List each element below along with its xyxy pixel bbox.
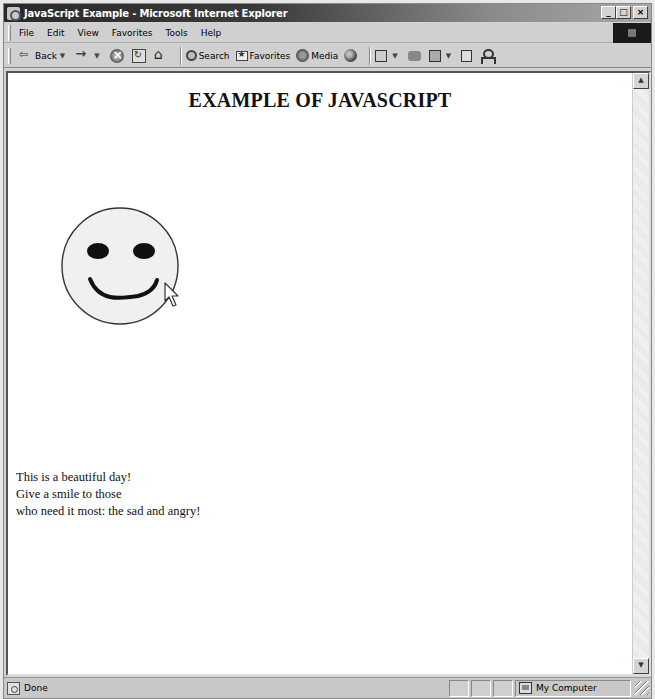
media-label: Media: [311, 51, 338, 61]
stop-icon: [110, 49, 124, 63]
vertical-scrollbar[interactable]: ▲ ▼: [632, 73, 649, 674]
print-icon: [408, 51, 421, 61]
status-pane: [493, 680, 513, 697]
search-icon: [186, 50, 197, 61]
status-pane: [471, 680, 491, 697]
search-button[interactable]: Search: [186, 50, 230, 61]
menu-edit[interactable]: Edit: [47, 28, 64, 38]
scroll-down-button[interactable]: ▼: [633, 658, 649, 674]
page-content: EXAMPLE OF JAVASCRIPT This is a beautifu…: [8, 73, 632, 674]
favorites-icon: [236, 51, 248, 61]
forward-icon: [75, 49, 89, 63]
refresh-button[interactable]: [132, 49, 148, 63]
messenger-button[interactable]: [480, 49, 496, 63]
windows-logo-throbber: [613, 23, 651, 43]
back-label: Back: [35, 51, 57, 61]
back-dropdown-icon[interactable]: ▼: [60, 52, 65, 60]
resize-grip[interactable]: [635, 681, 649, 695]
poem-line: This is a beautiful day!: [16, 469, 200, 486]
history-icon: [344, 49, 357, 62]
edit-icon: [429, 50, 441, 62]
search-label: Search: [199, 51, 230, 61]
close-button[interactable]: ×: [633, 6, 648, 19]
history-button[interactable]: [344, 49, 359, 62]
page-viewport: EXAMPLE OF JAVASCRIPT This is a beautifu…: [6, 71, 651, 676]
ie-logo-icon: [7, 7, 20, 20]
computer-icon: [519, 682, 532, 694]
home-icon: [154, 49, 168, 63]
forward-button[interactable]: ▼: [75, 49, 103, 63]
title-bar[interactable]: JavaScript Example - Microsoft Internet …: [4, 4, 651, 22]
forward-dropdown-icon[interactable]: ▼: [94, 52, 99, 60]
edit-dropdown-icon[interactable]: ▼: [446, 52, 451, 60]
maximize-button[interactable]: □: [616, 6, 631, 19]
mail-dropdown-icon[interactable]: ▼: [392, 52, 397, 60]
menu-favorites[interactable]: Favorites: [112, 28, 153, 38]
edit-button[interactable]: ▼: [429, 50, 455, 62]
back-icon: [19, 49, 33, 63]
favorites-button[interactable]: Favorites: [236, 51, 291, 61]
favorites-label: Favorites: [250, 51, 291, 61]
mail-icon: [375, 50, 387, 62]
minimize-button[interactable]: _: [601, 6, 616, 19]
menu-view[interactable]: View: [78, 28, 99, 38]
messenger-icon: [480, 49, 494, 63]
menu-bar: File Edit View Favorites Tools Help: [4, 23, 651, 43]
status-pane: [449, 680, 469, 697]
page-heading: EXAMPLE OF JAVASCRIPT: [8, 89, 632, 112]
menubar-grip[interactable]: [8, 25, 11, 41]
menu-file[interactable]: File: [19, 28, 34, 38]
security-zone[interactable]: My Computer: [515, 680, 631, 697]
scroll-up-button[interactable]: ▲: [633, 73, 649, 89]
poem-text: This is a beautiful day! Give a smile to…: [16, 469, 200, 520]
toolbar-separator: [369, 47, 371, 65]
poem-line: who need it most: the sad and angry!: [16, 503, 200, 520]
refresh-icon: [132, 49, 146, 63]
discuss-icon: [461, 50, 472, 62]
toolbar-grip[interactable]: [8, 48, 11, 64]
status-bar: Done My Computer: [4, 677, 651, 698]
menu-tools[interactable]: Tools: [166, 28, 188, 38]
stop-button[interactable]: [110, 49, 126, 63]
zone-label: My Computer: [536, 683, 597, 693]
standard-toolbar: Back ▼ ▼ Search Favorites Media: [4, 44, 651, 68]
page-status-icon: [7, 682, 20, 695]
poem-line: Give a smile to those: [16, 486, 200, 503]
toolbar-separator: [180, 47, 182, 65]
status-text: Done: [24, 683, 447, 693]
smiley-face-image[interactable]: [58, 202, 188, 337]
back-button[interactable]: Back ▼: [19, 49, 69, 63]
home-button[interactable]: [154, 49, 170, 63]
media-button[interactable]: Media: [296, 49, 338, 62]
menu-help[interactable]: Help: [201, 28, 222, 38]
print-button[interactable]: [408, 51, 423, 61]
smiley-icon: [58, 202, 188, 337]
mouse-cursor-icon: [164, 282, 182, 308]
window-controls: _ □ ×: [601, 6, 648, 19]
mail-button[interactable]: ▼: [375, 50, 401, 62]
browser-window: JavaScript Example - Microsoft Internet …: [3, 3, 652, 699]
discuss-button[interactable]: [461, 50, 474, 62]
media-icon: [296, 49, 309, 62]
window-title: JavaScript Example - Microsoft Internet …: [24, 8, 287, 19]
